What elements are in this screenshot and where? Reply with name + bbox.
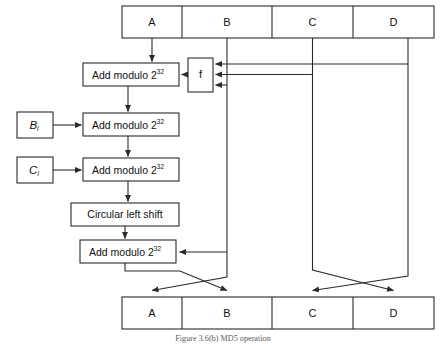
- output-cell-a-label: A: [148, 307, 156, 319]
- crossover-routing: [125, 259, 408, 291]
- add1-label: Add modulo 232: [92, 67, 164, 80]
- add4-label: Add modulo 232: [89, 244, 161, 257]
- input-cell-b-label: B: [223, 16, 230, 28]
- input-cell-a-label: A: [148, 16, 156, 28]
- input-ci-box: Ci: [17, 157, 53, 183]
- input-bi-box: Bi: [17, 112, 53, 138]
- output-register-outline: [122, 297, 434, 329]
- diagram-canvas: A B C D Add modulo 232 f Bi Add mod: [0, 0, 447, 344]
- output-cell-b-label: B: [223, 307, 230, 319]
- input-cell-c-label: C: [309, 16, 317, 28]
- output-register-row: A B C D: [122, 297, 434, 329]
- output-cell-d-label: D: [390, 307, 398, 319]
- output-cell-c-label: C: [309, 307, 317, 319]
- input-register-outline: [122, 6, 434, 38]
- add2-label: Add modulo 232: [92, 117, 164, 130]
- add-modulo-box-1: Add modulo 232: [83, 63, 179, 86]
- md5-operation-diagram: A B C D Add modulo 232 f Bi Add mod: [0, 0, 447, 344]
- c-to-output-d-line: [313, 262, 394, 291]
- add-modulo-box-2: Add modulo 232: [83, 113, 179, 136]
- nonlinear-function-box: f: [188, 58, 213, 92]
- circular-left-shift-box: Circular left shift: [71, 203, 179, 226]
- input-cell-d-label: D: [390, 16, 398, 28]
- register-drop-lines: [227, 38, 408, 268]
- d-to-output-c-line: [313, 268, 409, 291]
- input-register-row: A B C D: [122, 6, 434, 38]
- add3-label: Add modulo 232: [92, 162, 164, 175]
- figure-caption: Figure 3.6(b) MD5 operation: [175, 334, 271, 343]
- shift-label: Circular left shift: [87, 208, 162, 220]
- add-modulo-box-3: Add modulo 232: [83, 158, 179, 181]
- add-modulo-box-4: Add modulo 232: [80, 240, 176, 263]
